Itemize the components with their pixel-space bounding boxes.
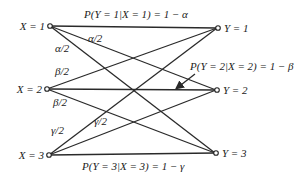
edge-x1-y1	[50, 26, 217, 28]
edge-x2-y2	[47, 89, 216, 90]
output-node-y3	[214, 151, 219, 156]
edge-label-x1-y2: α/2	[88, 32, 103, 44]
output-label-y3: Y = 3	[222, 147, 247, 159]
edge-label-x3-y3: P(Y = 3|X = 3) = 1 − γ	[81, 160, 185, 172]
input-label-x1: X = 1	[19, 20, 45, 32]
edge-label-x3-y2: γ/2	[94, 115, 107, 127]
input-label-x2: X = 2	[16, 83, 43, 95]
edge-label-x1-y3: α/2	[55, 42, 70, 54]
output-node-y2	[215, 88, 220, 93]
output-label-y1: Y = 1	[224, 22, 249, 34]
edge-label-x2-y3: β/2	[52, 96, 68, 108]
channel-diagram: X = 1 X = 2 X = 3 Y = 1 Y = 2 Y = 3 P(Y …	[0, 0, 308, 172]
edge-x3-y3	[49, 153, 215, 155]
edge-x2-y1	[47, 28, 217, 89]
edge-label-x3-y1: γ/2	[51, 124, 64, 136]
edge-label-x1-y1: P(Y = 1|X = 1) = 1 − α	[83, 8, 188, 21]
output-label-y2: Y = 2	[223, 84, 248, 96]
output-node-y1	[216, 26, 221, 31]
edge-label-x2-y2: P(Y = 2|X = 2) = 1 − β	[189, 60, 294, 73]
input-node-x2	[45, 87, 50, 92]
input-label-x3: X = 3	[18, 149, 45, 161]
input-node-x1	[48, 24, 53, 29]
edge-x2-y3	[47, 89, 215, 153]
edge-label-x2-y1: β/2	[54, 65, 70, 77]
input-node-x3	[47, 153, 52, 158]
